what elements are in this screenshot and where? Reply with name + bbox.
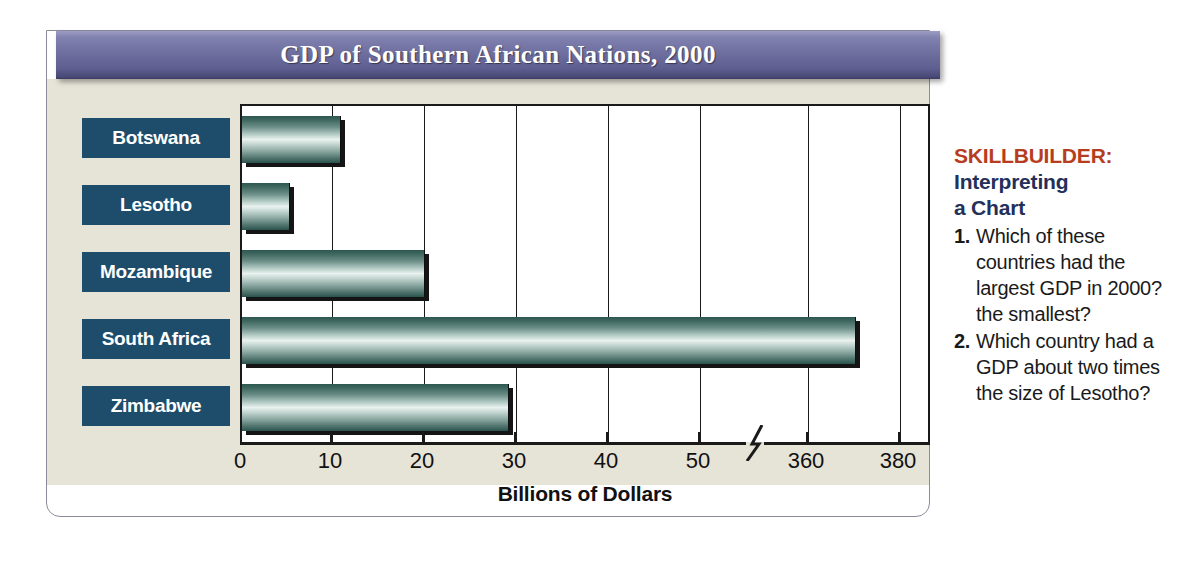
x-axis: 0 10 20 30 40 50 360 380 <box>240 442 930 443</box>
category-label-text: Lesotho <box>120 194 192 216</box>
plot-area <box>240 104 930 442</box>
tick-label-40: 40 <box>594 448 618 474</box>
tick-label-50: 50 <box>686 448 710 474</box>
category-label-lesotho: Lesotho <box>82 185 230 225</box>
skillbuilder-panel: SKILLBUILDER: Interpreting a Chart 1. Wh… <box>940 133 1181 513</box>
chart-title: GDP of Southern African Nations, 2000 <box>280 41 716 69</box>
gridline-380 <box>900 106 901 442</box>
category-label-text: Botswana <box>112 127 199 149</box>
bar-botswana <box>242 116 341 163</box>
question-number: 2. <box>954 328 976 406</box>
tick-label-380: 380 <box>880 448 917 474</box>
x-axis-title: Billions of Dollars <box>240 482 930 506</box>
category-label-text: Mozambique <box>100 261 212 283</box>
question-text: Which of these countries had the largest… <box>976 223 1175 327</box>
axis-segment-right <box>764 442 930 445</box>
tick-label-30: 30 <box>502 448 526 474</box>
tick-label-0: 0 <box>234 448 246 474</box>
skillbuilder-question-2: 2. Which country had a GDP about two tim… <box>954 328 1175 406</box>
skillbuilder-heading: SKILLBUILDER: <box>954 143 1175 169</box>
bar-zimbabwe <box>242 384 509 431</box>
tick-380 <box>898 432 900 442</box>
skillbuilder-subheading-line2: a Chart <box>954 195 1175 221</box>
gridline-360 <box>808 106 809 442</box>
tick-10 <box>330 432 332 442</box>
gridline-40 <box>608 106 609 442</box>
axis-segment-left <box>240 442 746 445</box>
category-label-south-africa: South Africa <box>82 319 230 359</box>
skillbuilder-subheading-line1: Interpreting <box>954 169 1175 195</box>
tick-label-10: 10 <box>318 448 342 474</box>
tick-40 <box>606 432 608 442</box>
tick-360 <box>806 432 808 442</box>
gridline-30 <box>516 106 517 442</box>
tick-label-20: 20 <box>410 448 434 474</box>
bar-lesotho <box>242 183 290 230</box>
bar-mozambique <box>242 250 425 297</box>
category-label-text: Zimbabwe <box>111 395 202 417</box>
axis-break-zigzag-icon <box>740 425 770 461</box>
category-label-text: South Africa <box>102 328 211 350</box>
category-label-zimbabwe: Zimbabwe <box>82 386 230 426</box>
tick-0 <box>240 432 242 442</box>
gridline-50 <box>700 106 701 442</box>
bar-south-africa <box>242 317 856 364</box>
skillbuilder-question-1: 1. Which of these countries had the larg… <box>954 223 1175 327</box>
chart-title-bar: GDP of Southern African Nations, 2000 <box>56 31 940 79</box>
category-label-mozambique: Mozambique <box>82 252 230 292</box>
question-text: Which country had a GDP about two times … <box>976 328 1175 406</box>
tick-50 <box>698 432 700 442</box>
tick-20 <box>422 432 424 442</box>
tick-label-360: 360 <box>788 448 825 474</box>
category-label-botswana: Botswana <box>82 118 230 158</box>
skillbuilder-question-list: 1. Which of these countries had the larg… <box>954 223 1175 406</box>
tick-30 <box>514 432 516 442</box>
question-number: 1. <box>954 223 976 327</box>
